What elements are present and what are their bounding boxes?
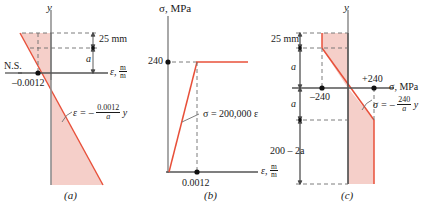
- panel-b-y-axis-label: σ, MPa: [159, 3, 191, 14]
- panel-a-dim-25mm-arrow: [91, 33, 95, 49]
- figure-vector-layer: [0, 0, 424, 206]
- panel-c-dim-a-upper-arrow: [298, 48, 302, 89]
- panel-a-equation-variable: y: [123, 107, 127, 118]
- panel-c-equation-denominator: a: [397, 105, 411, 113]
- panel-c-dim-25mm-label: 25 mm: [271, 34, 299, 44]
- panel-a-dim-a-label: a: [86, 54, 91, 64]
- panel-c-caption: (c): [341, 190, 353, 201]
- panel-a-x-axis-label: ε, m m: [110, 64, 127, 81]
- panel-c-x-axis-label: σ, MPa: [389, 82, 418, 92]
- panel-a-dim-a-arrow: [91, 48, 95, 74]
- panel-a-unit-denominator: m: [119, 72, 127, 80]
- panel-c-dim-a-upper-label: a: [291, 62, 296, 72]
- figure-root: y 25 mm a N.S. –0.0012 ε, m m ε = – 0.00…: [0, 0, 424, 206]
- panel-c-stress-positive-label: +240: [362, 74, 383, 84]
- panel-a-dim-25mm-label: 25 mm: [99, 34, 127, 44]
- panel-a-caption: (a): [64, 190, 77, 201]
- panel-c-equation: σ = – 240 a y: [373, 96, 418, 114]
- panel-a-strain-value-label: –0.0012: [12, 78, 45, 88]
- panel-a-x-axis-unit: m m: [119, 64, 127, 81]
- panel-c-point-lower-a-mark: [298, 118, 302, 122]
- panel-a-equation-lhs: ε =: [73, 107, 86, 118]
- panel-b-yield-strain-label: 0.0012: [182, 178, 210, 188]
- panel-b-graphics: [165, 16, 258, 175]
- panel-b-point-yield-strain: [194, 169, 199, 174]
- panel-b-x-axis-unit: m m: [270, 163, 278, 180]
- panel-b-unit-denominator: m: [270, 171, 278, 179]
- panel-c-point-neg240: [319, 85, 324, 90]
- panel-c-point-25mm-mark: [298, 46, 302, 50]
- panel-c-dim-a-lower-arrow: [298, 88, 302, 121]
- panel-c-point-pos240: [371, 85, 376, 90]
- panel-c-dim-a-lower-label: a: [291, 99, 296, 109]
- panel-a-equation-fraction: 0.0012 a: [96, 104, 120, 122]
- panel-b-point-yield-stress: [165, 59, 170, 64]
- panel-b-equation-leader: [182, 114, 199, 122]
- panel-b-yield-stress-label: 240: [148, 56, 163, 66]
- panel-c-equation-minus: –: [390, 99, 395, 110]
- panel-c-stress-negative-label: –240: [310, 92, 330, 102]
- panel-b-x-axis-label: ε, m m: [261, 163, 278, 180]
- panel-a-point-a-mark: [91, 46, 95, 50]
- panel-a-equation-denominator: a: [96, 113, 120, 121]
- panel-c-dim-remainder-label: 200 – 2a: [270, 146, 304, 156]
- panel-a-x-axis-symbol: ε,: [110, 66, 116, 77]
- panel-b-x-axis-symbol: ε,: [261, 165, 267, 176]
- panel-a-y-axis-label: y: [47, 2, 52, 13]
- panel-a-point-strain-max: [35, 70, 40, 75]
- panel-b-caption: (b): [204, 190, 217, 201]
- panel-c-y-axis-label: y: [344, 2, 349, 13]
- panel-a-equation: ε = – 0.0012 a y: [73, 104, 127, 122]
- panel-b-equation: σ = 200,000 ε: [203, 109, 258, 119]
- panel-a-equation-minus: –: [89, 107, 94, 118]
- panel-a-neutral-surface-label: N.S.: [4, 61, 22, 71]
- panel-c-equation-variable: y: [414, 99, 418, 110]
- panel-c-equation-lhs: σ =: [373, 99, 387, 110]
- panel-a-graphics: [5, 10, 108, 185]
- panel-c-equation-fraction: 240 a: [397, 96, 411, 114]
